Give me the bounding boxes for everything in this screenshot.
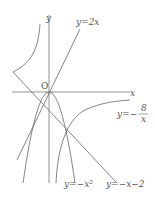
origin-label: O xyxy=(41,81,48,91)
hyperbola-label-denominator: x xyxy=(141,114,146,124)
line-y-neg-x-minus-2 xyxy=(13,72,116,182)
label-y-neg-x-squared: y=−x² xyxy=(63,179,93,189)
label-hyperbola: y=− 8 x xyxy=(116,103,148,124)
label-y-neg-x-minus-2: y=−x−2 xyxy=(105,179,145,189)
y-axis-label: y xyxy=(45,13,52,23)
hyperbola-left-branch xyxy=(13,24,40,72)
x-axis-label: x xyxy=(130,88,135,98)
line-y-2x xyxy=(17,29,80,160)
hyperbola-label-prefix: y=− xyxy=(116,109,137,119)
function-graph: y x O y=2x y=−x² y=−x−2 y=− 8 x xyxy=(0,0,155,200)
label-y-2x: y=2x xyxy=(75,17,99,27)
hyperbola-label-numerator: 8 xyxy=(141,103,147,113)
